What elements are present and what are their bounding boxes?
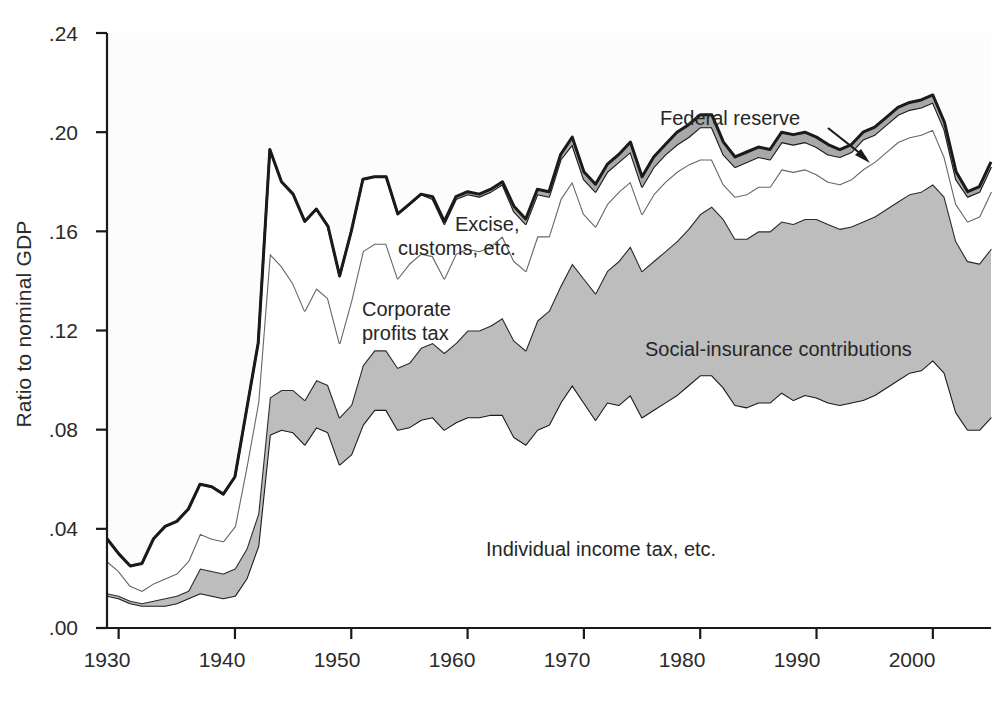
y-tick-label-020: .20: [18, 121, 78, 145]
y-tick-label-000: .00: [18, 616, 78, 640]
x-tick-label-1930: 1930: [67, 648, 147, 672]
annotation-federal-reserve: Federal reserve: [660, 107, 800, 130]
y-tick-label-016: .16: [18, 220, 78, 244]
x-tick-label-1990: 1990: [757, 648, 837, 672]
x-tick-label-2000: 2000: [872, 648, 952, 672]
y-tick-label-024: .24: [18, 22, 78, 46]
y-tick-label-008: .08: [18, 418, 78, 442]
x-tick-label-1950: 1950: [297, 648, 377, 672]
annotation-corporate-line2: profits tax: [362, 322, 449, 345]
x-tick-label-1970: 1970: [527, 648, 607, 672]
annotation-social-insurance: Social-insurance contributions: [645, 338, 912, 361]
annotation-individual-income-tax: Individual income tax, etc.: [486, 538, 716, 561]
x-tick-label-1940: 1940: [182, 648, 262, 672]
y-tick-label-004: .04: [18, 517, 78, 541]
annotation-excise-line1: Excise,: [455, 213, 519, 236]
annotation-excise-line2: customs, etc.: [398, 237, 516, 260]
annotation-corporate-line1: Corporate: [362, 298, 451, 321]
chart-figure: Ratio to nominal GDP .24 .20 .16 .12 .08…: [0, 0, 1006, 706]
x-tick-label-1980: 1980: [642, 648, 722, 672]
y-tick-label-012: .12: [18, 319, 78, 343]
x-tick-label-1960: 1960: [412, 648, 492, 672]
